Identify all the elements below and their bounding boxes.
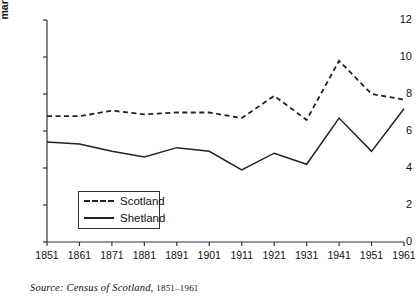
source-prefix: Source: [30, 282, 64, 293]
x-axis-ticks [47, 242, 404, 246]
legend-item-scotland: Scotland [79, 192, 159, 209]
legend-label-shetland: Shetland [120, 212, 165, 224]
legend-item-shetland: Shetland [79, 209, 159, 226]
source-caption: Source: Census of Scotland, 1851–1961 [30, 282, 199, 293]
legend-label-scotland: Scotland [120, 195, 165, 207]
legend-swatch-dashed-icon [84, 200, 114, 202]
source-years: 1851–1961 [156, 283, 198, 293]
chart-legend: Scotland Shetland [78, 191, 160, 229]
source-text: Census of Scotland, [67, 282, 154, 293]
series-line-scotland [47, 61, 404, 120]
series-line-shetland [47, 109, 404, 170]
data-series-group [47, 61, 404, 170]
legend-swatch-solid-icon [84, 217, 114, 219]
